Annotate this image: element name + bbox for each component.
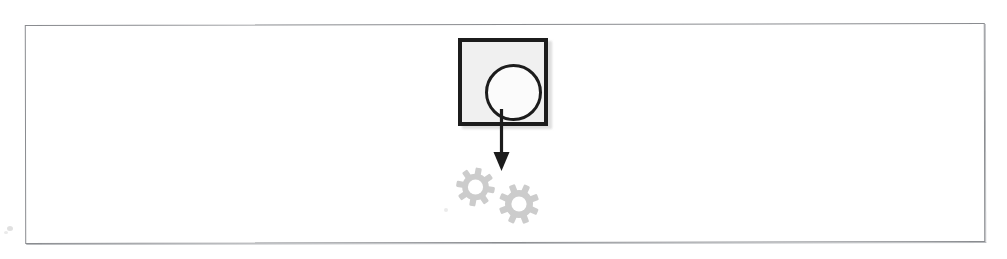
gears-icon [450, 30, 560, 235]
scan-artifact-speckle [4, 231, 8, 234]
gear-right [492, 177, 545, 230]
scan-artifact-speckle [444, 208, 448, 212]
figure-canvas [0, 0, 1007, 259]
flow-diagram [450, 30, 560, 235]
scan-artifact-speckle [7, 226, 13, 231]
gear-left [453, 165, 498, 210]
